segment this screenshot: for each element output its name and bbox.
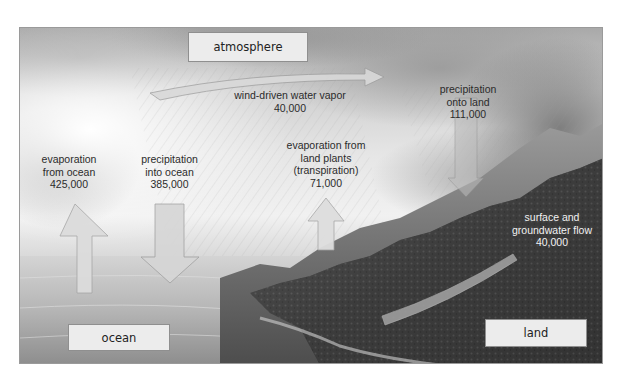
land-label-box: land [485, 319, 587, 347]
wind-vapor-value: 40,000 [215, 102, 365, 115]
evaporation-ocean-value: 425,000 [34, 178, 104, 191]
landscape-background [20, 28, 603, 364]
precipitation-land-label: precipitation onto land 111,000 [428, 83, 508, 121]
wind-vapor-label: wind-driven water vapor 40,000 [215, 89, 365, 114]
precipitation-land-value: 111,000 [428, 108, 508, 121]
ocean-label-box: ocean [68, 324, 170, 351]
transpiration-label: evaporation from land plants (transpirat… [276, 139, 376, 189]
precipitation-ocean-value: 385,000 [132, 178, 207, 191]
atmosphere-label: atmosphere [214, 40, 283, 54]
water-cycle-diagram: atmosphere ocean land evaporation from o… [19, 27, 603, 364]
groundwater-flow-value: 40,000 [506, 236, 598, 249]
atmosphere-label-box: atmosphere [188, 32, 308, 62]
groundwater-flow-label: surface and groundwater flow 40,000 [506, 211, 598, 249]
land-label: land [524, 326, 549, 340]
evaporation-ocean-label: evaporation from ocean 425,000 [34, 153, 104, 191]
precipitation-ocean-label: precipitation into ocean 385,000 [132, 153, 207, 191]
ocean-label: ocean [102, 331, 137, 345]
transpiration-value: 71,000 [276, 177, 376, 190]
